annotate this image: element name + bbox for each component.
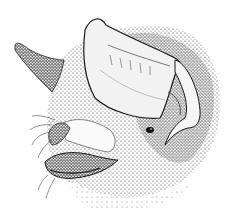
bat-head-illustration <box>0 0 241 220</box>
eye <box>146 127 154 133</box>
